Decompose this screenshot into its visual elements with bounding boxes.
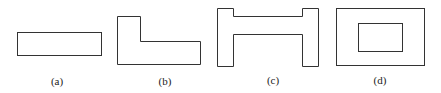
- figure-label-b: (b): [159, 75, 172, 87]
- shape-b-l-shape: [118, 17, 201, 65]
- figure-label-a: (a): [51, 75, 63, 87]
- shape-c-i-beam: [218, 9, 319, 67]
- figure-label-c: (c): [267, 74, 279, 86]
- figure-label-d: (d): [374, 74, 387, 86]
- shape-d-outer-rectangle: [337, 9, 425, 66]
- shape-d-inner-hole: [359, 24, 403, 52]
- shape-a-rectangle: [18, 33, 102, 56]
